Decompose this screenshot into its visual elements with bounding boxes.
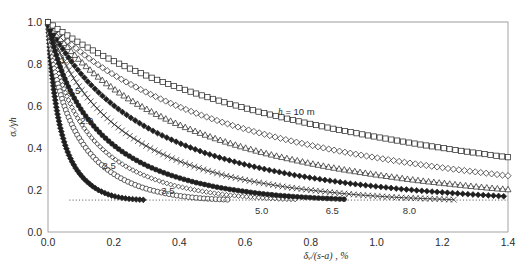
data-marker bbox=[342, 197, 347, 202]
data-marker bbox=[348, 130, 353, 135]
data-marker bbox=[476, 151, 481, 156]
x-tick-label: 1.0 bbox=[369, 236, 384, 248]
x-tick-label: 0.6 bbox=[238, 236, 253, 248]
data-marker bbox=[267, 112, 272, 117]
data-marker bbox=[434, 164, 440, 170]
data-marker bbox=[385, 157, 391, 163]
curve-label-2-0: 2.0 bbox=[80, 115, 93, 126]
data-marker bbox=[325, 125, 330, 130]
curve-label-3-5: 3.5 bbox=[161, 185, 174, 196]
data-marker bbox=[241, 161, 247, 167]
data-marker bbox=[155, 77, 160, 82]
data-marker bbox=[363, 182, 369, 188]
data-marker bbox=[90, 48, 95, 53]
data-marker bbox=[235, 124, 241, 130]
data-marker bbox=[461, 167, 467, 173]
data-marker bbox=[501, 193, 507, 199]
data-marker bbox=[439, 165, 445, 171]
data-marker bbox=[267, 133, 273, 139]
data-marker bbox=[347, 181, 353, 187]
data-marker bbox=[144, 73, 149, 78]
data-marker bbox=[199, 93, 204, 98]
data-marker bbox=[117, 61, 122, 66]
data-marker bbox=[217, 155, 223, 161]
data-marker bbox=[251, 164, 257, 170]
data-marker bbox=[312, 175, 318, 181]
data-marker bbox=[342, 149, 348, 155]
series-line-8.0 bbox=[48, 22, 508, 176]
data-marker bbox=[378, 184, 384, 190]
data-marker bbox=[365, 133, 370, 138]
data-marker bbox=[347, 150, 353, 156]
data-marker bbox=[80, 42, 85, 47]
x-tick-label: 0.8 bbox=[304, 236, 319, 248]
data-marker bbox=[225, 197, 230, 202]
data-marker bbox=[313, 122, 318, 127]
data-marker bbox=[412, 161, 418, 167]
data-marker bbox=[245, 127, 251, 133]
data-marker bbox=[470, 192, 476, 198]
x-tick-label: 0.0 bbox=[41, 236, 56, 248]
x-tick-label: 1.4 bbox=[501, 236, 516, 248]
data-marker bbox=[331, 126, 336, 131]
data-marker bbox=[374, 155, 380, 161]
curve-label-2-5: 2.5 bbox=[103, 160, 116, 171]
y-tick-label: 0.6 bbox=[27, 100, 42, 112]
data-marker bbox=[133, 68, 138, 73]
x-tick-label: 1.2 bbox=[435, 236, 450, 248]
data-marker bbox=[494, 171, 500, 177]
data-marker bbox=[444, 190, 450, 196]
data-marker bbox=[429, 163, 435, 169]
x-tick-label: 0.4 bbox=[172, 236, 187, 248]
data-marker bbox=[407, 160, 413, 166]
data-marker bbox=[222, 156, 228, 162]
data-marker bbox=[352, 181, 358, 187]
data-marker bbox=[383, 185, 389, 191]
data-marker bbox=[227, 101, 232, 106]
data-marker bbox=[182, 87, 187, 92]
data-marker bbox=[358, 152, 364, 158]
y-tick-label: 0.4 bbox=[27, 142, 42, 154]
data-marker bbox=[354, 131, 359, 136]
data-marker bbox=[246, 163, 252, 169]
data-marker bbox=[326, 146, 332, 152]
data-marker bbox=[299, 140, 305, 146]
data-marker bbox=[434, 189, 440, 195]
data-marker bbox=[483, 170, 489, 176]
data-marker bbox=[494, 153, 499, 158]
data-marker bbox=[482, 152, 487, 157]
data-marker bbox=[363, 153, 369, 159]
data-marker bbox=[205, 95, 210, 100]
data-marker bbox=[282, 170, 288, 176]
data-marker bbox=[460, 191, 466, 197]
data-marker bbox=[331, 147, 337, 153]
data-marker bbox=[412, 141, 417, 146]
data-marker bbox=[60, 30, 65, 35]
data-marker bbox=[194, 91, 199, 96]
data-marker bbox=[388, 185, 394, 191]
data-marker bbox=[400, 139, 405, 144]
data-marker bbox=[200, 189, 205, 194]
data-marker bbox=[488, 152, 493, 157]
data-marker bbox=[472, 169, 478, 175]
data-marker bbox=[453, 147, 458, 152]
data-marker bbox=[45, 19, 50, 24]
data-marker bbox=[101, 53, 106, 58]
data-marker bbox=[470, 150, 475, 155]
data-marker bbox=[188, 187, 193, 192]
data-marker bbox=[127, 66, 132, 71]
data-marker bbox=[262, 111, 267, 116]
data-marker bbox=[414, 188, 420, 194]
data-marker bbox=[439, 189, 445, 195]
curve-label-5-0: 5.0 bbox=[255, 205, 268, 216]
data-marker bbox=[475, 192, 481, 198]
data-marker bbox=[233, 103, 238, 108]
data-marker bbox=[266, 167, 272, 173]
data-marker bbox=[369, 154, 375, 160]
data-marker bbox=[236, 160, 242, 166]
data-marker bbox=[389, 137, 394, 142]
data-marker bbox=[464, 149, 469, 154]
data-marker bbox=[208, 190, 213, 195]
data-marker bbox=[55, 26, 60, 31]
data-marker bbox=[450, 166, 456, 172]
